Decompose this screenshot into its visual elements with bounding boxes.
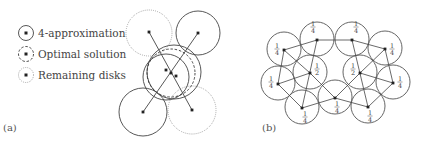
legend: 4-approximationOptimal solutionRemaining… xyxy=(19,26,127,83)
point xyxy=(392,82,395,85)
weight-label: 12 xyxy=(351,62,356,78)
weight-denominator: 4 xyxy=(335,107,339,115)
legend-point-icon xyxy=(25,53,28,56)
edge xyxy=(149,32,192,110)
legend-item: Remaining disks xyxy=(19,68,126,83)
point xyxy=(170,72,173,75)
legend-label: Optimal solution xyxy=(38,48,127,60)
weight-label: 14 xyxy=(275,42,280,58)
legend-item: 4-approximation xyxy=(19,26,126,41)
weight-denominator: 4 xyxy=(398,82,402,90)
point xyxy=(277,83,280,86)
legend-point-icon xyxy=(25,32,28,35)
weight-denominator: 4 xyxy=(311,27,315,35)
point xyxy=(165,69,168,72)
weight-label: 14 xyxy=(398,75,403,91)
point xyxy=(142,111,145,114)
weight-denominator: 2 xyxy=(315,69,319,77)
weight-denominator: 4 xyxy=(390,49,394,57)
figure-b-caption: (b) xyxy=(262,122,276,133)
weight-label: 14 xyxy=(335,100,340,116)
figure-a-caption: (a) xyxy=(3,122,17,133)
point xyxy=(197,32,200,35)
point xyxy=(148,31,151,34)
figure-b: 1414141412121414141414 (b) xyxy=(261,20,410,134)
weight-label: 14 xyxy=(269,75,274,91)
point xyxy=(316,39,319,42)
legend-label: Remaining disks xyxy=(38,69,126,81)
weight-label: 14 xyxy=(354,20,359,36)
figure-a: 4-approximationOptimal solutionRemaining… xyxy=(3,10,220,136)
weight-label: 14 xyxy=(390,42,395,58)
figure-a-disks xyxy=(119,10,220,136)
legend-point-icon xyxy=(25,74,28,77)
point xyxy=(283,49,286,52)
weight-label: 14 xyxy=(368,109,373,125)
point xyxy=(351,39,354,42)
point xyxy=(175,75,178,78)
weight-label: 12 xyxy=(315,62,320,78)
edge xyxy=(278,84,302,108)
edge xyxy=(278,73,310,84)
weight-denominator: 4 xyxy=(275,49,279,57)
weight-label: 14 xyxy=(311,20,316,36)
legend-label: 4-approximation xyxy=(38,27,126,39)
point xyxy=(191,109,194,112)
point xyxy=(359,72,362,75)
legend-item: Optimal solution xyxy=(19,47,127,62)
point xyxy=(384,48,387,51)
edge xyxy=(368,83,393,107)
weight-denominator: 4 xyxy=(354,27,358,35)
weight-denominator: 4 xyxy=(303,117,307,125)
weight-denominator: 4 xyxy=(269,82,273,90)
point xyxy=(309,72,312,75)
disk xyxy=(147,45,201,99)
weight-denominator: 4 xyxy=(368,116,372,124)
weight-denominator: 2 xyxy=(351,69,355,77)
figure-canvas: 4-approximationOptimal solutionRemaining… xyxy=(0,0,430,144)
weight-label: 14 xyxy=(303,110,308,126)
